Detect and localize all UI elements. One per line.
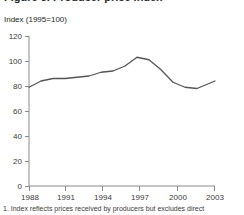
y-tick-label: 20: [0, 158, 22, 166]
y-tick-label: 100: [0, 58, 22, 66]
y-tick-label: 0: [0, 183, 22, 191]
y-tick-label: 80: [0, 83, 22, 91]
y-tick-label: 120: [0, 33, 22, 41]
y-tick-label: 60: [0, 108, 22, 116]
x-tick-label: 1994: [88, 194, 118, 202]
data-series-line: [29, 57, 215, 88]
x-tick-label: 1988: [15, 194, 45, 202]
x-tick-label: 2003: [200, 194, 230, 202]
y-tick-label: 40: [0, 133, 22, 141]
x-tick-label: 1991: [51, 194, 81, 202]
line-chart-plot: [0, 0, 244, 200]
figure-footnote-text: 1. Index reflects prices received by pro…: [3, 204, 243, 213]
x-tick-label: 2000: [163, 194, 193, 202]
figure-footnote: 1. Index reflects prices received by pro…: [3, 204, 243, 215]
figure-container: Figure 3. Producer price index Index (19…: [0, 0, 244, 215]
x-tick-label: 1997: [125, 194, 155, 202]
